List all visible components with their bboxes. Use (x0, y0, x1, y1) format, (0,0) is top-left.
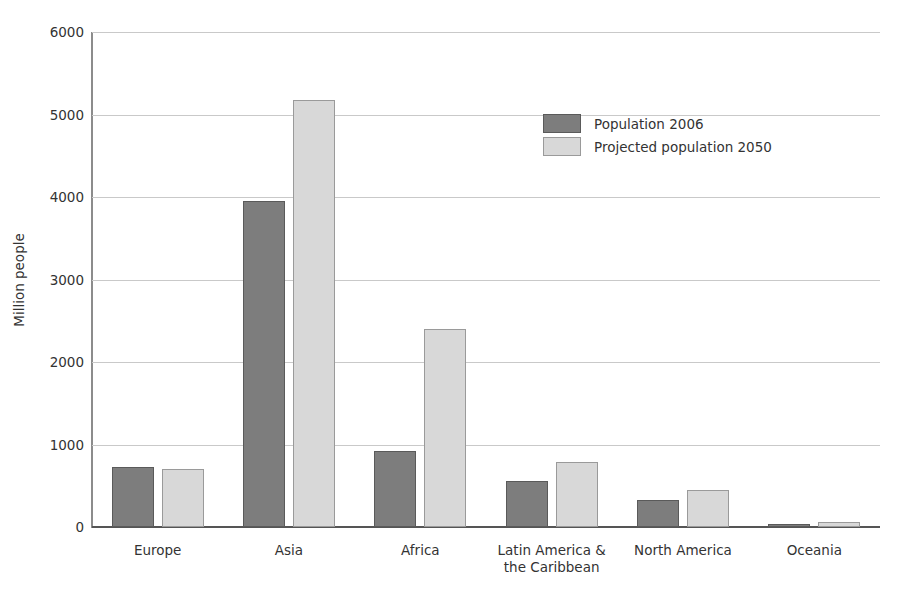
gridline (92, 362, 880, 363)
legend-label: Projected population 2050 (594, 139, 772, 155)
gridline (92, 445, 880, 446)
plot-area (92, 32, 880, 527)
gridline (92, 32, 880, 33)
x-axis-tick-label: North America (610, 542, 755, 559)
y-axis-tick-label: 0 (26, 519, 84, 535)
legend-item-projected-population-2050: Projected population 2050 (543, 135, 783, 158)
bar-projected-population-2050 (162, 469, 204, 527)
chart-title: World population in 2006 and projected f… (10, 0, 414, 2)
y-axis-tick-label: 4000 (26, 189, 84, 205)
bar-projected-population-2050 (818, 522, 860, 527)
y-axis-tick-label: 2000 (26, 354, 84, 370)
y-axis-tick-label: 6000 (26, 24, 84, 40)
bar-projected-population-2050 (556, 462, 598, 527)
dark-gray-swatch-icon (543, 114, 581, 133)
y-axis-tick-label: 3000 (26, 272, 84, 288)
bar-projected-population-2050 (687, 490, 729, 527)
bar-projected-population-2050 (293, 100, 335, 527)
chart-legend: Population 2006 Projected population 205… (543, 112, 783, 158)
bar-population-2006 (637, 500, 679, 527)
x-axis-tick-label: Oceania (742, 542, 887, 559)
legend-item-population-2006: Population 2006 (543, 112, 783, 135)
x-axis-tick-label: Europe (85, 542, 230, 559)
x-axis-tick-labels: EuropeAsiaAfricaLatin America & the Cari… (92, 534, 880, 592)
gridline (92, 197, 880, 198)
y-axis-tick-label: 1000 (26, 437, 84, 453)
gridline (92, 280, 880, 281)
bar-population-2006 (243, 201, 285, 527)
legend-label: Population 2006 (594, 116, 704, 132)
light-gray-swatch-icon (543, 137, 581, 156)
bar-chart-figure: World population in 2006 and projected f… (0, 0, 899, 595)
bar-projected-population-2050 (424, 329, 466, 527)
bar-population-2006 (506, 481, 548, 527)
y-axis-tick-label: 5000 (26, 107, 84, 123)
bar-population-2006 (768, 524, 810, 527)
x-axis-tick-label: Latin America & the Caribbean (479, 542, 624, 576)
bar-population-2006 (374, 451, 416, 527)
y-axis-tick-labels: 0100020003000400050006000 (22, 32, 84, 527)
x-axis-tick-label: Asia (216, 542, 361, 559)
bar-population-2006 (112, 467, 154, 527)
x-axis-tick-label: Africa (348, 542, 493, 559)
